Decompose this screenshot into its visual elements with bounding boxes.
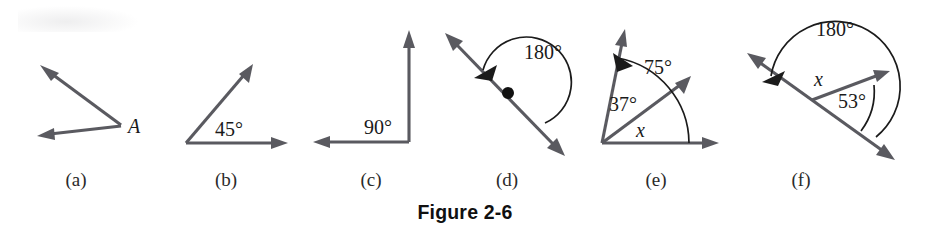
panel-e-diagram	[602, 29, 719, 149]
panel-f-diagram	[747, 21, 900, 160]
figure-canvas: A 45° 90°	[0, 0, 931, 233]
panel-e-steep-arrowhead	[615, 29, 627, 47]
figure-caption: Figure 2-6	[417, 201, 512, 223]
panel-b-angle-label: 45°	[215, 118, 243, 140]
panel-e-angle-label-x: x	[635, 119, 645, 141]
panel-label-f: (f)	[792, 169, 811, 191]
panel-e-angle-label-37: 37°	[609, 93, 637, 115]
panel-f-branch-arrowhead	[873, 70, 890, 82]
panel-a-upper-ray	[52, 74, 121, 125]
panel-e-angle-label-75: 75°	[644, 56, 672, 78]
panel-f-angle-label-x: x	[813, 68, 823, 90]
panel-c-horizontal-arrowhead	[313, 136, 330, 148]
panel-label-b: (b)	[215, 169, 237, 191]
panel-b-horizontal-arrowhead	[271, 137, 288, 149]
panel-e-middle-arrowhead	[675, 76, 691, 94]
panel-d-vertex-dot	[502, 87, 514, 99]
panel-f-angle-label-180: 180°	[816, 18, 854, 40]
panel-d-angle-label: 180°	[524, 41, 562, 63]
panel-e-horizontal-arrowhead	[702, 137, 719, 149]
figure-2-6: A 45° 90°	[0, 0, 931, 233]
panel-a-lower-arrowhead	[37, 128, 55, 140]
panel-label-d: (d)	[496, 169, 518, 191]
panel-label-c: (c)	[360, 169, 381, 191]
panel-c-angle-label: 90°	[364, 116, 392, 138]
panel-label-e: (e)	[645, 169, 666, 191]
panel-a-diagram	[37, 65, 121, 140]
panel-c-vertical-arrowhead	[403, 30, 415, 48]
panel-f-angle-label-53: 53°	[838, 90, 866, 112]
panel-a-vertex-label: A	[126, 115, 141, 137]
panel-label-a: (a)	[65, 169, 86, 191]
panel-a-lower-ray	[50, 126, 121, 134]
